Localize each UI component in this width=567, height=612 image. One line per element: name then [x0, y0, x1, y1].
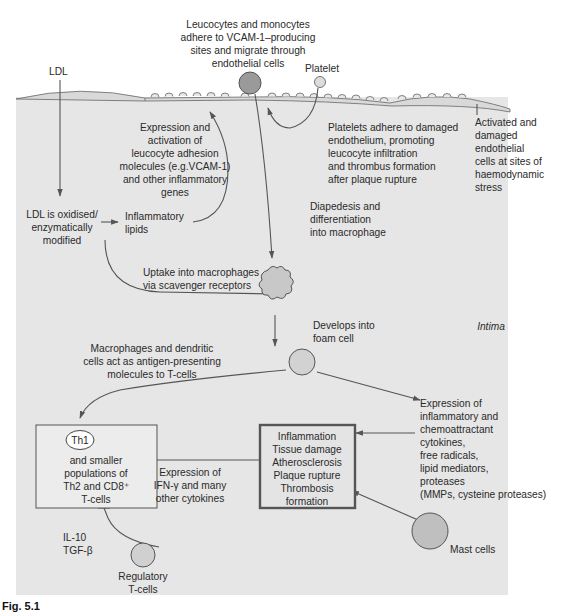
svg-text:Uptake into macrophages: Uptake into macrophages	[143, 267, 259, 278]
svg-text:differentiation: differentiation	[310, 214, 371, 225]
svg-text:formation: formation	[286, 496, 328, 507]
svg-text:cells at sites of: cells at sites of	[475, 156, 542, 167]
svg-text:endothelium, promoting: endothelium, promoting	[328, 135, 435, 146]
svg-text:molecules (e.g.VCAM-1): molecules (e.g.VCAM-1)	[120, 161, 231, 172]
svg-text:chemoattractant: chemoattractant	[420, 424, 493, 435]
svg-text:enzymatically: enzymatically	[31, 222, 93, 233]
svg-text:leucocyte adhesion: leucocyte adhesion	[131, 148, 218, 159]
svg-text:IL-10: IL-10	[63, 532, 87, 543]
svg-text:Thrombosis: Thrombosis	[280, 483, 333, 494]
leucocytes-text: Leucocytes and monocytes adhere to VCAM-…	[181, 19, 316, 69]
th1-badge-label: Th1	[71, 435, 89, 446]
svg-text:Inflammation: Inflammation	[278, 431, 336, 442]
svg-text:Macrophages and dendritic: Macrophages and dendritic	[91, 343, 214, 354]
figure-caption: Fig. 5.1	[2, 600, 40, 612]
svg-text:lipid mediators,: lipid mediators,	[420, 463, 489, 474]
svg-text:IFN-γ and many: IFN-γ and many	[154, 480, 227, 491]
svg-text:Expression and: Expression and	[140, 122, 211, 133]
svg-text:molecules to T-cells: molecules to T-cells	[107, 369, 196, 380]
svg-text:Leucocytes and monocytes: Leucocytes and monocytes	[186, 19, 309, 30]
svg-text:genes: genes	[161, 187, 189, 198]
svg-text:leucocyte infiltration: leucocyte infiltration	[328, 148, 417, 159]
intima-label: Intima	[477, 321, 505, 332]
svg-text:inflammatory and: inflammatory and	[420, 411, 498, 422]
svg-text:sites and migrate through: sites and migrate through	[191, 45, 306, 56]
regulatory-t-cell	[131, 543, 155, 567]
svg-text:and thrombus formation: and thrombus formation	[328, 161, 436, 172]
ifn-text: Expression of IFN-γ and many other cytok…	[154, 467, 227, 504]
svg-text:Plaque rupture: Plaque rupture	[274, 470, 341, 481]
svg-text:populations of: populations of	[64, 468, 128, 479]
svg-text:Diapedesis and: Diapedesis and	[310, 201, 381, 212]
svg-text:and other inflammatory: and other inflammatory	[123, 174, 228, 185]
svg-text:LDL is oxidised/: LDL is oxidised/	[26, 209, 98, 220]
svg-text:and smaller: and smaller	[70, 455, 123, 466]
svg-text:Tissue damage: Tissue damage	[272, 444, 342, 455]
platelet-label: Platelet	[305, 63, 339, 74]
leucocyte-cell	[239, 72, 261, 94]
svg-text:foam cell: foam cell	[313, 333, 354, 344]
svg-text:damaged: damaged	[475, 130, 518, 141]
svg-text:T-cells: T-cells	[128, 584, 157, 595]
svg-text:(MMPs, cysteine proteases): (MMPs, cysteine proteases)	[420, 489, 546, 500]
svg-text:TGF-β: TGF-β	[63, 545, 93, 556]
svg-text:haemodynamic: haemodynamic	[475, 169, 544, 180]
svg-text:endothelial: endothelial	[475, 143, 524, 154]
svg-text:modified: modified	[43, 235, 82, 246]
svg-text:cytokines,: cytokines,	[420, 437, 465, 448]
svg-text:Expression of: Expression of	[159, 467, 221, 478]
svg-text:endothelial cells: endothelial cells	[212, 58, 285, 69]
svg-text:Expression of: Expression of	[420, 398, 482, 409]
svg-text:Activated and: Activated and	[475, 117, 537, 128]
svg-text:via scavenger receptors: via scavenger receptors	[143, 280, 251, 291]
atherosclerosis-pathway-diagram: Th1 LDL Leucocytes and monocytes adhere …	[0, 0, 567, 612]
foam-cell	[289, 349, 315, 375]
svg-text:Develops into: Develops into	[313, 320, 375, 331]
svg-text:adhere to VCAM-1–producing: adhere to VCAM-1–producing	[181, 32, 316, 43]
mast-cells-label: Mast cells	[450, 544, 495, 555]
svg-text:proteases: proteases	[420, 476, 465, 487]
svg-text:lipids: lipids	[125, 224, 148, 235]
svg-text:stress: stress	[475, 182, 502, 193]
svg-text:Regulatory: Regulatory	[118, 571, 168, 582]
svg-text:Atherosclerosis: Atherosclerosis	[272, 457, 342, 468]
svg-text:activation of: activation of	[148, 135, 203, 146]
svg-text:Inflammatory: Inflammatory	[125, 211, 185, 222]
svg-text:Th2 and CD8⁺: Th2 and CD8⁺	[63, 481, 129, 492]
svg-text:T-cells: T-cells	[81, 494, 110, 505]
mast-cell	[412, 513, 448, 549]
svg-text:into macrophage: into macrophage	[310, 227, 386, 238]
ldl-label: LDL	[49, 66, 68, 77]
svg-text:Platelets adhere to damaged: Platelets adhere to damaged	[328, 122, 459, 133]
platelet-cell	[315, 77, 326, 88]
svg-text:cells act as antigen-presentin: cells act as antigen-presenting	[83, 356, 221, 367]
svg-text:free radicals,: free radicals,	[420, 450, 478, 461]
svg-text:after plaque rupture: after plaque rupture	[328, 174, 417, 185]
svg-text:other cytokines: other cytokines	[156, 493, 225, 504]
